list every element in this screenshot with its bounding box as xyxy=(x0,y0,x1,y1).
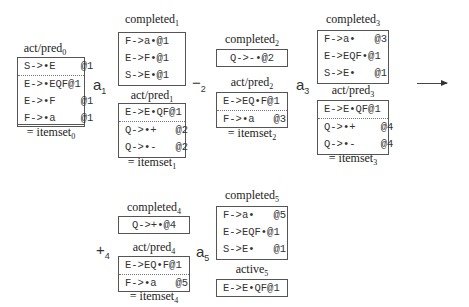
label-sub: 5 xyxy=(275,195,279,204)
act-pred-3-label: act/pred3 xyxy=(317,83,389,99)
completed-1-label: completed1 xyxy=(117,12,187,28)
label-sub: 2 xyxy=(269,82,273,91)
completed-5-label: completed5 xyxy=(216,188,288,204)
act-pred-2-box: E->EQ•F@1 F->•a @3 xyxy=(216,92,288,128)
item-row: Q->+•@4 xyxy=(119,217,189,233)
completed-2-label: completed2 xyxy=(216,32,288,48)
label-text: act/pred xyxy=(231,75,270,89)
transition-sub: 4 xyxy=(105,251,110,261)
act-pred-1-box: E->E•QF@1 Q->•+ @2 Q->•- @2 xyxy=(118,103,186,158)
item-row: S->E• @1 xyxy=(318,65,388,82)
transition-symbol: − xyxy=(192,74,201,91)
transition-symbol: + xyxy=(96,241,105,258)
item-row: E->EQF•@1 xyxy=(318,48,388,65)
item-row: E->EQF•@1 xyxy=(217,224,287,241)
item-row: S->•E @1 xyxy=(18,58,84,75)
item-row: E->E•QF@1 xyxy=(119,104,185,121)
label-text: completed xyxy=(125,12,175,26)
item-row: F->a• @3 xyxy=(318,31,388,48)
label-sub: 1 xyxy=(175,19,179,28)
act-pred-1-label: act/pred1 xyxy=(118,88,186,104)
item-row: E->E•QF@1 xyxy=(217,280,287,296)
item-row: Q->•- @2 xyxy=(119,139,185,156)
transition-minus2: −2 xyxy=(192,74,206,94)
transition-a1: a1 xyxy=(93,76,106,96)
transition-a3: a3 xyxy=(296,76,309,96)
label-text: = itemset xyxy=(228,126,272,140)
act-pred-4-label: act/pred4 xyxy=(118,240,190,256)
label-sub: 1 xyxy=(172,162,176,171)
completed-3-box: F->a• @3 E->EQF•@1 S->E• @1 xyxy=(317,30,389,84)
transition-sub: 2 xyxy=(201,84,206,94)
label-text: completed xyxy=(225,188,275,202)
label-text: = itemset xyxy=(130,289,174,303)
itemset-1-label: = itemset1 xyxy=(118,155,186,171)
label-sub: 3 xyxy=(373,158,377,167)
completed-5-box: F->a• @5 E->EQF•@1 S->E• @1 xyxy=(216,206,288,260)
transition-plus4: +4 xyxy=(96,241,110,261)
label-sub: 2 xyxy=(272,133,276,142)
label-text: act/pred xyxy=(133,240,172,254)
completed-4-box: Q->+•@4 xyxy=(118,216,190,234)
label-sub: 0 xyxy=(62,48,66,57)
label-text: completed xyxy=(127,200,177,214)
item-row: F->a• @5 xyxy=(217,207,287,224)
item-row: E->F•@1 xyxy=(119,50,185,67)
label-sub: 3 xyxy=(376,19,380,28)
completed-3-label: completed3 xyxy=(317,12,389,28)
itemset-3-label: = itemset3 xyxy=(317,151,389,167)
right-arrow-icon xyxy=(417,83,447,84)
completed-4-label: completed4 xyxy=(118,200,190,216)
label-sub: 4 xyxy=(177,207,181,216)
itemset-0-label: = itemset0 xyxy=(17,124,85,141)
transition-a5: a5 xyxy=(196,243,209,263)
label-text: = itemset xyxy=(27,125,71,139)
active-5-box: E->E•QF@1 xyxy=(216,279,288,297)
act-pred-0-box: S->•E @1 E->•EQF@1 E->•F @1 F->•a @1 xyxy=(17,57,85,127)
label-text: = itemset xyxy=(329,151,373,165)
item-row: S->E• @1 xyxy=(217,241,287,258)
item-row: E->•EQF@1 xyxy=(18,75,84,93)
active-5-label: active5 xyxy=(216,262,288,278)
transition-sub: 5 xyxy=(204,253,209,263)
item-row: S->E•@1 xyxy=(119,67,185,84)
label-text: act/pred xyxy=(332,83,371,97)
item-row: Q->•+ @2 xyxy=(119,121,185,139)
item-row: E->E•QF@1 xyxy=(318,101,388,118)
item-row: Q->-•@2 xyxy=(217,50,287,66)
label-text: completed xyxy=(225,32,275,46)
transition-sub: 1 xyxy=(101,86,106,96)
item-row: E->EQ•F@1 xyxy=(217,93,287,110)
item-row: F->a•@1 xyxy=(119,33,185,50)
itemset-4-label: = itemset4 xyxy=(118,289,190,305)
act-pred-2-label: act/pred2 xyxy=(216,75,288,91)
label-sub: 4 xyxy=(174,296,178,305)
completed-1-box: F->a•@1 E->F•@1 S->E•@1 xyxy=(118,32,186,86)
label-sub: 5 xyxy=(264,269,268,278)
label-sub: 0 xyxy=(71,132,75,141)
act-pred-3-box: E->E•QF@1 Q->•+ @4 Q->•- @4 xyxy=(317,100,389,155)
item-row: Q->•+ @4 xyxy=(318,118,388,136)
label-text: = itemset xyxy=(128,155,172,169)
act-pred-4-box: E->EQ•F@1 F->•a @5 xyxy=(118,256,190,292)
label-text: act/pred xyxy=(131,88,170,102)
completed-2-box: Q->-•@2 xyxy=(216,49,288,67)
transition-sub: 3 xyxy=(304,86,309,96)
item-row: E->EQ•F@1 xyxy=(119,257,189,274)
label-text: act/pred xyxy=(24,41,63,55)
itemset-2-label: = itemset2 xyxy=(216,126,288,142)
act-pred-0-label: act/pred0 xyxy=(14,41,76,57)
item-row: E->•F @1 xyxy=(18,93,84,110)
label-text: active xyxy=(236,262,265,276)
label-sub: 3 xyxy=(370,90,374,99)
label-sub: 2 xyxy=(275,39,279,48)
label-sub: 4 xyxy=(171,247,175,256)
label-text: completed xyxy=(326,12,376,26)
